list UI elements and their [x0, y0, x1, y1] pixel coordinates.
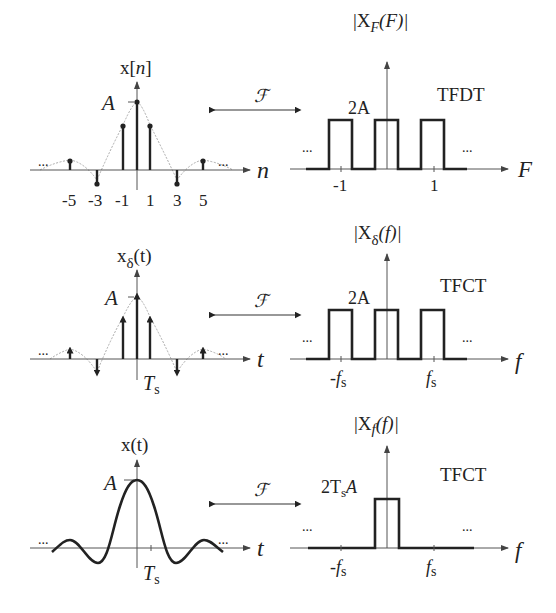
row-continuous: x(t) A ... ... t Ts ℱ |Xf(f)| 2TsA TFCT …: [30, 413, 525, 587]
ellipsis-right: ...: [218, 154, 229, 169]
svg-text:-1: -1: [115, 191, 129, 210]
Xdelta-axis-label: |Xδ(f)|: [354, 222, 402, 248]
x-t-axis-label: x(t): [121, 434, 148, 456]
Ts-tick-label: Ts: [143, 372, 160, 397]
tick-minus-fs: -fs: [330, 557, 346, 579]
amplitude-A-label: A: [102, 471, 117, 495]
dtft-spectrum-plot: |XF(F)| 2A TFDT ... ... F -1 1: [290, 10, 533, 195]
amplitude-A-label: A: [103, 286, 118, 310]
t-axis-label: t: [257, 535, 265, 561]
ellipsis-left: ...: [38, 154, 49, 169]
fourier-sampling-diagram: x[n] A ... ... n -5 -3 -1 1: [0, 0, 556, 613]
continuous-spectrum-plot: |Xf(f)| 2TsA TFCT ... ... f -fs fs: [290, 413, 525, 579]
height-2TsA-label: 2TsA: [321, 477, 358, 500]
ellipsis-left: ...: [38, 343, 49, 358]
domain-label-tfct: TFCT: [440, 464, 487, 485]
Ts-tick-label: Ts: [143, 562, 160, 587]
x-n-axis-label: x[n]: [120, 57, 152, 78]
domain-label-tfct: TFCT: [440, 275, 487, 296]
ellipsis-left: ...: [302, 519, 313, 534]
t-axis-label: t: [257, 346, 265, 372]
svg-text:1: 1: [146, 191, 155, 210]
ellipsis-left: ...: [302, 330, 313, 345]
rect-spectrum: [308, 499, 474, 548]
sampled-spectrum-plot: |Xδ(f)| 2A TFCT ... ... f -fs fs: [290, 222, 525, 390]
ellipsis-left: ...: [302, 140, 313, 155]
ellipsis-right: ...: [218, 343, 229, 358]
ellipsis-right: ...: [462, 330, 473, 345]
tick-fs: fs: [426, 557, 436, 579]
n-tick-labels: -5 -3 -1 1 3 5: [62, 191, 208, 210]
svg-text:3: 3: [173, 191, 182, 210]
fourier-symbol: ℱ: [254, 86, 271, 106]
amplitude-A-label: A: [100, 91, 115, 115]
impulse-train-plot: xδ(t) A ... ... t Ts: [30, 245, 265, 397]
fourier-transform-arrow: ℱ: [212, 480, 298, 504]
f-axis-label: f: [515, 538, 525, 563]
ellipsis-right: ...: [462, 140, 473, 155]
sinc-plot: x(t) A ... ... t Ts: [30, 434, 265, 587]
fourier-symbol: ℱ: [254, 480, 271, 500]
tick-minus-fs: -fs: [330, 368, 346, 390]
domain-label-tfdt: TFDT: [437, 84, 485, 105]
fourier-symbol: ℱ: [254, 291, 271, 311]
ellipsis-left: ...: [38, 532, 49, 547]
Xf-axis-label: |Xf(f)|: [354, 413, 399, 437]
height-2A-label: 2A: [348, 98, 370, 118]
F-axis-label: F: [517, 157, 533, 182]
fourier-transform-arrow: ℱ: [212, 86, 298, 110]
ellipsis-right: ...: [462, 519, 473, 534]
ellipsis-right: ...: [218, 532, 229, 547]
height-2A-label: 2A: [348, 288, 370, 308]
row-impulse-sampled: xδ(t) A ... ... t Ts ℱ |: [30, 222, 525, 397]
tick-fs: fs: [426, 368, 436, 390]
XF-axis-label: |XF(F)|: [353, 10, 409, 35]
tick-1: 1: [430, 176, 439, 195]
row-discrete: x[n] A ... ... n -5 -3 -1 1: [30, 10, 533, 210]
x-delta-axis-label: xδ(t): [117, 245, 152, 271]
svg-text:5: 5: [199, 191, 208, 210]
discrete-time-plot: x[n] A ... ... n -5 -3 -1 1: [30, 57, 269, 210]
svg-text:-5: -5: [62, 191, 76, 210]
tick-minus-1: -1: [333, 176, 347, 195]
n-axis-label: n: [257, 157, 269, 183]
svg-text:-3: -3: [88, 191, 102, 210]
f-axis-label: f: [515, 349, 525, 374]
fourier-transform-arrow: ℱ: [212, 291, 298, 315]
